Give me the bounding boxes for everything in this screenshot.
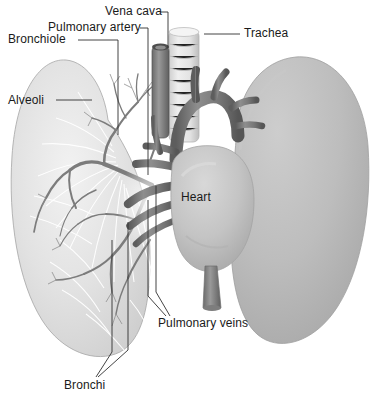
label-heart: Heart bbox=[181, 191, 211, 203]
label-alveoli: Alveoli bbox=[8, 94, 44, 106]
label-vena-cava: Vena cava bbox=[105, 5, 162, 17]
label-pulmonary-artery: Pulmonary artery bbox=[48, 21, 141, 33]
descending-aorta bbox=[203, 266, 221, 311]
leader-pulmonary-artery bbox=[140, 28, 148, 175]
label-bronchiole: Bronchiole bbox=[8, 33, 66, 45]
anatomy-diagram: Bronchiole Pulmonary artery Vena cava Tr… bbox=[0, 0, 384, 394]
label-bronchi: Bronchi bbox=[64, 379, 105, 391]
label-trachea: Trachea bbox=[244, 27, 288, 39]
label-pulmonary-veins: Pulmonary veins bbox=[158, 317, 248, 329]
